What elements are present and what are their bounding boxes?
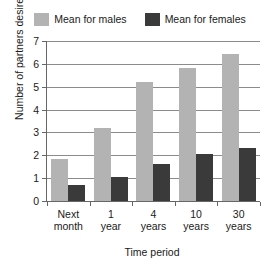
x-tick-mark — [90, 202, 91, 206]
y-tick-mark — [42, 178, 46, 179]
y-tick-mark — [42, 110, 46, 111]
bar-females — [111, 177, 128, 201]
legend-label-males: Mean for males — [54, 14, 126, 25]
chart-legend: Mean for males Mean for females — [0, 8, 280, 30]
y-tick-mark — [42, 132, 46, 133]
bar-groups — [47, 41, 260, 201]
bar-females — [196, 154, 213, 201]
x-tick-mark — [260, 202, 261, 206]
legend-entry-females: Mean for females — [145, 13, 246, 26]
y-tick-label: 3 — [33, 127, 39, 138]
x-category-label: 4years — [132, 208, 175, 232]
x-category-label: 10years — [175, 208, 218, 232]
y-tick-label: 6 — [33, 59, 39, 70]
bar-chart-figure: Mean for males Mean for females Number o… — [0, 0, 280, 267]
y-tick-label: 4 — [33, 104, 39, 115]
bar-females — [153, 164, 170, 201]
legend-label-females: Mean for females — [165, 14, 246, 25]
bar-males — [136, 82, 153, 201]
bar-group — [47, 41, 90, 201]
y-tick-mark — [42, 64, 46, 65]
bar-females — [239, 148, 256, 201]
legend-swatch-females — [145, 13, 160, 26]
bar-males — [94, 128, 111, 201]
y-tick-label: 0 — [33, 196, 39, 207]
y-tick-label: 1 — [33, 173, 39, 184]
x-axis-ticks — [46, 202, 260, 207]
bar-group — [217, 41, 260, 201]
y-tick-mark — [42, 155, 46, 156]
bar-group — [175, 41, 218, 201]
bar-group — [90, 41, 133, 201]
y-axis-title: Number of partners desired — [13, 0, 25, 136]
x-tick-mark — [47, 202, 48, 206]
y-tick-label: 2 — [33, 150, 39, 161]
bar-males — [51, 159, 68, 201]
y-tick-mark — [42, 87, 46, 88]
y-tick-label: 5 — [33, 81, 39, 92]
legend-entry-males: Mean for males — [34, 13, 126, 26]
legend-swatch-males — [34, 13, 49, 26]
x-tick-mark — [132, 202, 133, 206]
x-category-label: 30years — [217, 208, 260, 232]
x-category-label: Nextmonth — [47, 208, 90, 232]
bar-females — [68, 185, 85, 201]
bar-group — [132, 41, 175, 201]
bar-males — [179, 68, 196, 201]
x-axis-title: Time period — [44, 246, 260, 258]
y-tick-mark — [42, 41, 46, 42]
x-tick-mark — [217, 202, 218, 206]
x-category-label: 1year — [90, 208, 133, 232]
bar-males — [222, 54, 239, 201]
y-tick-label: 7 — [33, 36, 39, 47]
plot-area: 01234567 — [46, 41, 260, 202]
x-tick-mark — [175, 202, 176, 206]
x-axis-category-labels: Nextmonth1year4years10years30years — [47, 208, 260, 232]
